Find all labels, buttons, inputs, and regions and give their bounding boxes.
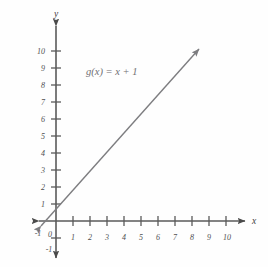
x-axis-label: x [251,216,257,226]
y-tick-label-6: 6 [41,115,45,124]
x-tick-label-5: 5 [139,233,143,242]
x-tick-label-9: 9 [207,233,211,242]
function-equation-label: g(x) = x + 1 [86,66,138,78]
x-tick-label-1: 1 [71,233,75,242]
y-tick-label-neg1: -1 [46,245,53,254]
coordinate-plane-svg: -1 0 1 2 3 4 5 6 7 8 9 10 -1 1 2 3 4 5 6… [0,0,268,267]
y-tick-label-5: 5 [41,132,45,141]
y-tick-label-10: 10 [37,47,45,56]
x-tick-label-10: 10 [223,233,231,242]
graph-figure: -1 0 1 2 3 4 5 6 7 8 9 10 -1 1 2 3 4 5 6… [0,0,268,267]
x-tick-label-3: 3 [104,233,109,242]
x-tick-label-7: 7 [173,233,178,242]
x-tick-labels: -1 0 1 2 3 4 5 6 7 8 9 10 [35,229,231,242]
x-tick-label-8: 8 [190,233,194,242]
y-tick-label-1: 1 [41,200,45,209]
y-tick-label-8: 8 [41,81,45,90]
y-tick-label-4: 4 [41,149,45,158]
x-tick-label-2: 2 [88,233,92,242]
y-tick-label-9: 9 [41,64,45,73]
y-tick-label-3: 3 [40,166,45,175]
y-axis-label: y [53,9,59,19]
y-tick-labels: -1 1 2 3 4 5 6 7 8 9 10 [37,47,52,254]
y-axis [51,26,61,258]
x-axis [39,216,245,226]
y-tick-label-2: 2 [41,183,45,192]
x-tick-label-neg1: -1 [35,229,42,238]
x-tick-label-4: 4 [122,233,126,242]
x-tick-label-6: 6 [156,233,160,242]
x-tick-label-0: 0 [48,230,52,239]
y-tick-label-7: 7 [41,98,46,107]
